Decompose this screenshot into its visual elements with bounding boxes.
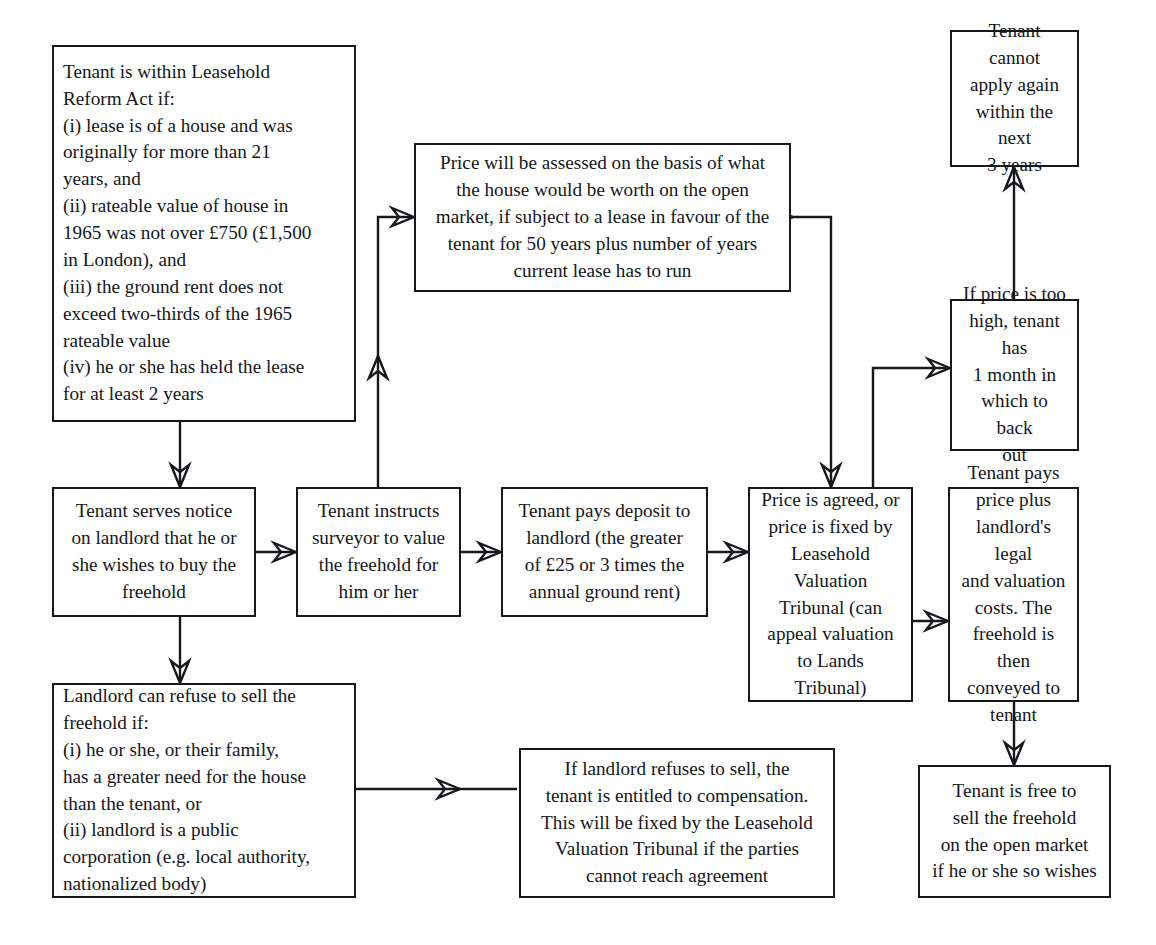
node-price-agreed[interactable]: Price is agreed, or price is fixed by Le… <box>748 487 913 702</box>
node-serves-notice-text: Tenant serves notice on landlord that he… <box>54 498 254 606</box>
connector-instructs-surveyor-to-price-basis <box>369 208 414 487</box>
node-price-agreed-text: Price is agreed, or price is fixed by Le… <box>750 487 911 702</box>
node-price-basis-text: Price will be assessed on the basis of w… <box>416 150 789 284</box>
node-landlord-refuse[interactable]: Landlord can refuse to sell the freehold… <box>52 683 356 898</box>
node-tenant-pays-price[interactable]: Tenant pays price plus landlord's legal … <box>948 487 1079 702</box>
node-compensation-text: If landlord refuses to sell, the tenant … <box>521 756 833 890</box>
flowchart-canvas: Tenant is within Leasehold Reform Act if… <box>0 0 1156 945</box>
node-compensation[interactable]: If landlord refuses to sell, the tenant … <box>519 748 835 898</box>
node-instructs-surveyor-text: Tenant instructs surveyor to value the f… <box>298 498 459 606</box>
connector-price-agreed-to-tenant-pays-price <box>913 612 948 630</box>
node-cannot-apply-text: Tenant cannot apply again within the nex… <box>952 18 1077 179</box>
node-price-too-high-text: If price is too high, tenant has 1 month… <box>952 281 1077 469</box>
node-eligibility[interactable]: Tenant is within Leasehold Reform Act if… <box>52 45 356 422</box>
connector-instructs-surveyor-to-pays-deposit <box>461 543 501 561</box>
node-cannot-apply[interactable]: Tenant cannot apply again within the nex… <box>950 30 1079 167</box>
node-pays-deposit-text: Tenant pays deposit to landlord (the gre… <box>503 498 706 606</box>
connector-landlord-refuse-to-compensation <box>356 780 517 798</box>
connector-pays-deposit-to-price-agreed <box>708 543 748 561</box>
node-tenant-pays-price-text: Tenant pays price plus landlord's legal … <box>950 460 1077 729</box>
node-instructs-surveyor[interactable]: Tenant instructs surveyor to value the f… <box>296 487 461 617</box>
node-eligibility-text: Tenant is within Leasehold Reform Act if… <box>54 59 354 408</box>
connector-serves-notice-to-landlord-refuse <box>171 617 189 683</box>
connector-price-too-high-to-cannot-apply <box>1005 167 1023 299</box>
node-price-too-high[interactable]: If price is too high, tenant has 1 month… <box>950 299 1079 451</box>
connector-price-agreed-to-price-too-high <box>873 359 950 487</box>
connector-serves-notice-to-instructs-surveyor <box>256 543 296 561</box>
connector-eligibility-to-serves-notice <box>171 422 189 487</box>
node-serves-notice[interactable]: Tenant serves notice on landlord that he… <box>52 487 256 617</box>
node-landlord-refuse-text: Landlord can refuse to sell the freehold… <box>54 683 354 898</box>
node-price-basis[interactable]: Price will be assessed on the basis of w… <box>414 143 791 292</box>
node-free-to-sell-text: Tenant is free to sell the freehold on t… <box>920 778 1109 886</box>
node-pays-deposit[interactable]: Tenant pays deposit to landlord (the gre… <box>501 487 708 617</box>
node-free-to-sell[interactable]: Tenant is free to sell the freehold on t… <box>918 765 1111 898</box>
